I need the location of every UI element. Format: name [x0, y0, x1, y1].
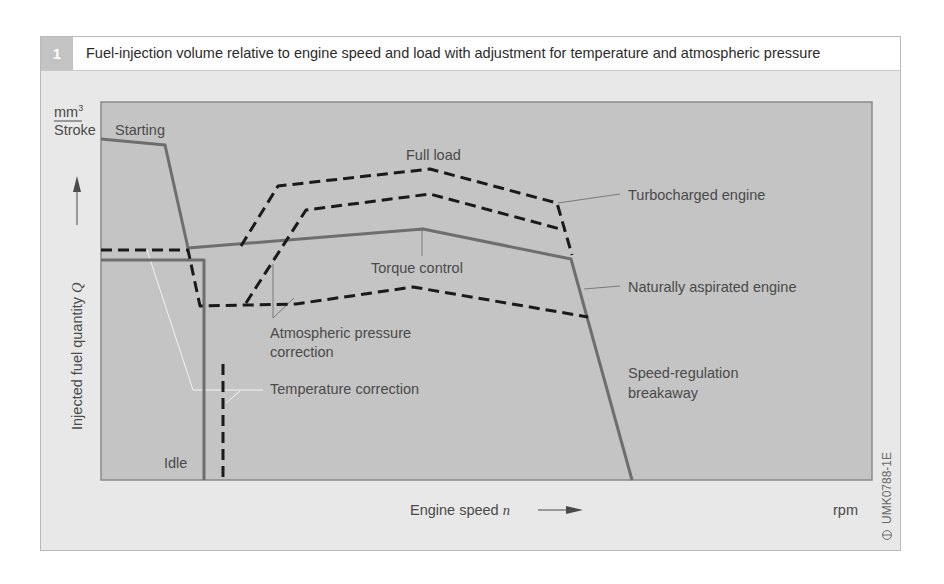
label-full-load: Full load — [406, 147, 461, 163]
label-speed-regulation-2: breakaway — [628, 385, 699, 401]
svg-text:Injected fuel quantity Q: Injected fuel quantity Q — [69, 282, 85, 430]
x-axis-unit: rpm — [833, 502, 858, 518]
y-unit-bottom: Stroke — [54, 122, 96, 138]
label-atmospheric-2: correction — [270, 344, 334, 360]
fuel-injection-diagram: mm3 Stroke Injected fuel quantity Q Engi… — [0, 0, 944, 584]
label-temperature: Temperature correction — [270, 381, 419, 397]
y-axis-label: Injected fuel quantity Q — [69, 282, 85, 430]
label-starting: Starting — [115, 122, 165, 138]
label-naturally-aspirated: Naturally aspirated engine — [628, 279, 796, 295]
x-axis-label: Engine speed n — [410, 502, 510, 518]
figure-code: UMK0788-1E — [880, 452, 894, 540]
figure-code-text: UMK0788-1E — [880, 452, 894, 524]
label-idle: Idle — [164, 455, 187, 471]
x-axis-arrow-icon — [566, 506, 583, 514]
y-unit-top: mm3 — [54, 103, 83, 120]
label-speed-regulation-1: Speed-regulation — [628, 365, 738, 381]
y-axis-arrow-icon — [73, 176, 81, 192]
label-torque-control: Torque control — [371, 260, 463, 276]
label-turbocharged: Turbocharged engine — [628, 187, 765, 203]
label-atmospheric-1: Atmospheric pressure — [270, 325, 411, 341]
